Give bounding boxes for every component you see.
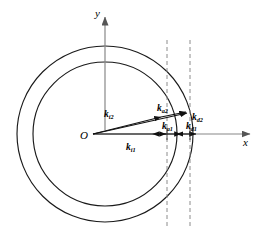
label-k-i2: ki2 — [104, 110, 114, 120]
x-axis-label: x — [243, 137, 248, 148]
diagram-canvas — [0, 0, 264, 239]
label-k-d1: kd1 — [186, 122, 197, 132]
y-axis-label: y — [95, 8, 100, 19]
label-k-a2: ka2 — [157, 104, 168, 114]
label-k-i1: ki1 — [126, 143, 136, 153]
origin-label: O — [80, 130, 88, 141]
wave-vector-diagram: y x O ki2 ki1 ka2 kd2 ka1 kd1 — [0, 0, 264, 239]
label-k-a1: ka1 — [162, 122, 173, 132]
